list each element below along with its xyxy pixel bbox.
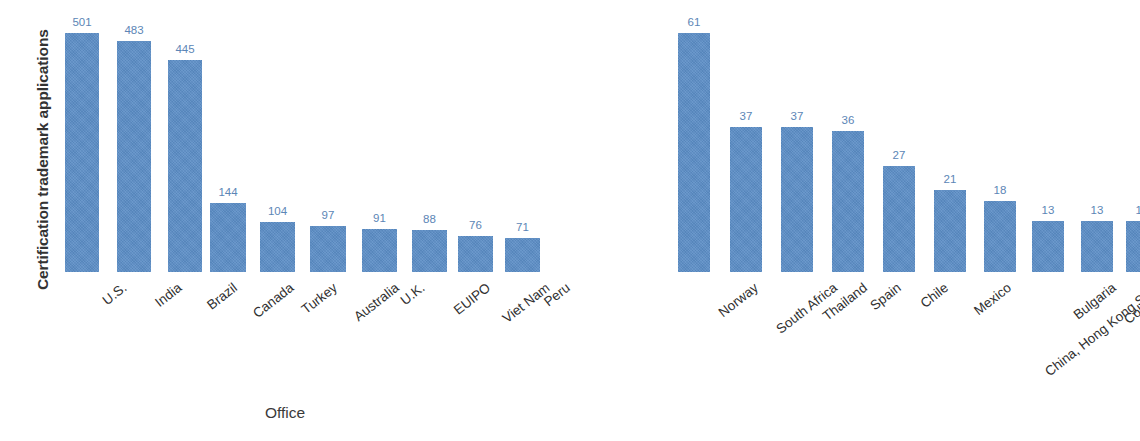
bar [117, 41, 151, 272]
bar-value-label: 13 [1112, 204, 1140, 217]
x-tick-label: EUIPO [450, 280, 492, 318]
bar-value-label: 36 [818, 114, 878, 127]
x-tick-label: Canada [250, 280, 297, 321]
x-tick-label: U.K. [397, 280, 427, 308]
chart-panel-right: Certification trademark applications 61N… [570, 0, 1140, 441]
plot-area-left: 501U.S.483India445Brazil144Canada104Turk… [0, 0, 570, 441]
bar-value-label: 144 [198, 186, 258, 199]
bar [1081, 221, 1113, 272]
x-tick-label: Turkey [298, 280, 339, 317]
x-tick-label: Viet Nam [499, 280, 552, 326]
bar [362, 229, 397, 272]
bar [1032, 221, 1064, 272]
bar [505, 238, 540, 272]
bar [458, 236, 493, 272]
x-axis-title-left: Office [240, 404, 330, 422]
x-tick-label: Chile [918, 280, 951, 311]
bar-value-label: 27 [869, 149, 929, 162]
chart-panel-left: Certification trademark applications 501… [0, 0, 570, 441]
bar [65, 33, 99, 272]
x-tick-label: Mexico [971, 280, 1014, 318]
x-tick-label: Australia [351, 280, 402, 324]
bar [310, 226, 346, 272]
x-tick-label: India [152, 280, 184, 310]
bar [883, 166, 915, 272]
bar-value-label: 61 [664, 16, 724, 29]
x-tick-label: Brazil [204, 280, 240, 313]
bar-value-label: 445 [155, 43, 215, 56]
bar [412, 230, 447, 272]
plot-area-right: 61Norway37South Africa37Thailand36Spain2… [570, 0, 1140, 441]
bar [781, 127, 813, 272]
bar [168, 60, 202, 272]
figure-canvas: Certification trademark applications 501… [0, 0, 1140, 441]
bar [1126, 221, 1140, 272]
bar [210, 203, 246, 272]
bar-value-label: 18 [970, 184, 1030, 197]
bar [730, 127, 762, 272]
bar-value-label: 483 [104, 24, 164, 37]
x-tick-label: Norway [716, 280, 761, 320]
x-tick-label: Spain [867, 280, 903, 313]
bar [934, 190, 966, 272]
bar-value-label: 501 [52, 16, 112, 29]
bar-value-label: 71 [493, 221, 553, 234]
bar [260, 222, 295, 272]
bar [678, 33, 710, 272]
x-tick-label: U.S. [100, 280, 130, 308]
bar [984, 201, 1016, 272]
bar [832, 131, 864, 272]
